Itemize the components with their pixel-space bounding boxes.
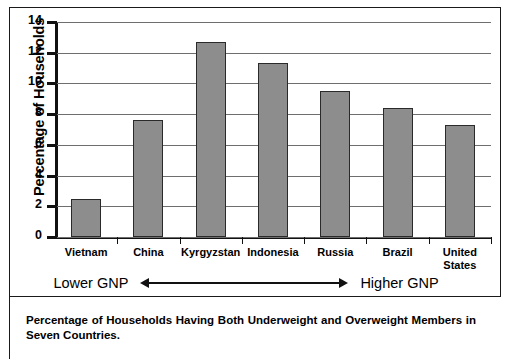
double-arrow-icon	[140, 277, 348, 289]
x-axis-tick	[304, 237, 305, 244]
figure-caption: Percentage of Households Having Both Und…	[26, 313, 476, 343]
gridline	[55, 237, 491, 238]
x-axis-tick	[491, 237, 492, 244]
bar	[320, 91, 350, 237]
y-axis-tick: 4	[47, 175, 57, 178]
y-axis-tick: 2	[47, 205, 57, 208]
y-axis-tick: 14	[47, 21, 57, 24]
y-axis-tick-label: 0	[16, 228, 42, 242]
y-axis-tick-label: 6	[16, 136, 42, 150]
bar	[383, 108, 413, 237]
y-axis-tick-label: 12	[16, 44, 42, 58]
y-axis-tick: 0	[47, 236, 57, 239]
arrow-shaft	[148, 282, 340, 284]
plot-area: 02468101214VietnamChinaKyrgyzstanIndones…	[55, 22, 491, 237]
plot-wrapper: Percentage of Households 02468101214Viet…	[9, 7, 501, 271]
x-axis-tick	[366, 237, 367, 244]
bar	[196, 42, 226, 237]
y-axis-tick-label: 10	[16, 74, 42, 88]
bar	[133, 120, 163, 237]
y-axis-tick: 10	[47, 82, 57, 85]
gnp-annotation-row: Lower GNP Higher GNP	[10, 270, 482, 296]
gridline	[55, 53, 491, 54]
lower-gnp-label: Lower GNP	[53, 275, 128, 291]
y-axis-tick-label: 4	[16, 167, 42, 181]
bar	[71, 199, 101, 237]
arrow-head-right-icon	[339, 278, 348, 288]
y-axis-tick-label: 14	[16, 13, 42, 27]
x-axis-tick	[117, 237, 118, 244]
x-axis-category-label: United States	[423, 246, 497, 271]
y-axis-tick-label: 8	[16, 105, 42, 119]
y-axis-tick: 6	[47, 144, 57, 147]
bar	[258, 63, 288, 237]
gridline	[55, 22, 491, 23]
y-axis-tick-label: 2	[16, 197, 42, 211]
higher-gnp-label: Higher GNP	[360, 275, 438, 291]
bar	[445, 125, 475, 237]
y-axis-tick: 8	[47, 113, 57, 116]
x-axis-tick	[180, 237, 181, 244]
figure-page: Percentage of Households 02468101214Viet…	[0, 0, 508, 360]
x-axis-tick	[429, 237, 430, 244]
x-axis-tick	[242, 237, 243, 244]
y-axis-tick: 12	[47, 52, 57, 55]
